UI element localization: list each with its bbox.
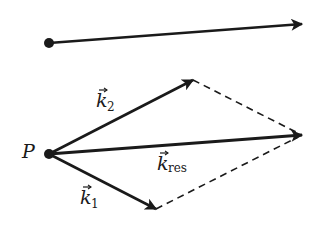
- vector-kres: [49, 135, 302, 154]
- svg-text:k: k: [96, 89, 108, 111]
- point-p-label: P: [21, 140, 36, 162]
- svg-text:2: 2: [107, 100, 115, 114]
- label-k2: k 2: [96, 88, 115, 114]
- vector-k2: [49, 80, 193, 154]
- svg-text:k: k: [157, 152, 169, 174]
- svg-text:res: res: [168, 161, 187, 175]
- svg-text:1: 1: [91, 197, 99, 211]
- top-vector: [44, 24, 302, 48]
- vector-k1: [49, 154, 156, 209]
- vector-diagram: P k 2 k res k 1: [0, 0, 325, 235]
- label-kres: k res: [157, 151, 187, 175]
- top-vector-origin-dot: [44, 38, 54, 48]
- svg-text:k: k: [80, 186, 92, 208]
- label-k1: k 1: [80, 185, 99, 211]
- point-p-dot: [44, 149, 54, 159]
- dashed-line-k2-to-kres: [193, 80, 298, 133]
